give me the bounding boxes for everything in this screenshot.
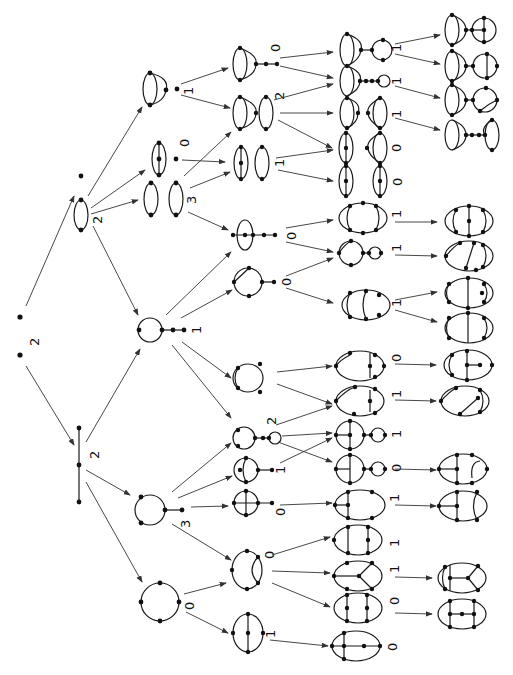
level4-arrows: [395, 35, 440, 614]
level3-column: 0 2 1 0 0 2: [230, 44, 299, 654]
svg-text:0: 0: [262, 551, 277, 559]
svg-text:1: 1: [389, 110, 404, 118]
svg-text:0: 0: [389, 354, 404, 362]
svg-text:0: 0: [389, 144, 404, 152]
svg-text:1: 1: [272, 159, 287, 167]
level2-theta-node: 0: [152, 139, 192, 178]
svg-text:0: 0: [387, 597, 402, 605]
svg-text:1: 1: [389, 77, 404, 85]
svg-text:1: 1: [273, 466, 288, 474]
svg-text:1: 1: [387, 494, 402, 502]
level2-double-loop-node: 3: [144, 181, 199, 218]
level2-sunset-node: 1: [143, 71, 196, 108]
svg-text:1: 1: [389, 430, 404, 438]
svg-text:1: 1: [181, 87, 196, 95]
level4-column: 1 1 1 0 0 1 1 1: [330, 32, 405, 661]
level2-ring-node: 0: [139, 581, 197, 624]
svg-text:0: 0: [389, 464, 404, 472]
level5-column: [437, 13, 499, 629]
level3-arrows: [270, 52, 333, 646]
svg-text:0: 0: [268, 44, 283, 52]
svg-text:0: 0: [177, 139, 192, 147]
level2-loop-stub-node: 3: [135, 495, 193, 528]
svg-text:1: 1: [263, 630, 278, 638]
svg-text:1: 1: [387, 539, 402, 547]
svg-text:0: 0: [390, 178, 405, 186]
svg-text:2: 2: [90, 216, 105, 224]
svg-text:1: 1: [389, 390, 404, 398]
svg-text:2: 2: [87, 451, 102, 459]
svg-text:1: 1: [389, 44, 404, 52]
svg-text:0: 0: [182, 602, 197, 610]
topology-tree-diagram: 2 2 2 1 0: [0, 0, 513, 675]
root-node: 2: [17, 314, 42, 357]
level2-loop-tail-node: 1: [137, 318, 204, 342]
svg-text:0: 0: [385, 643, 400, 651]
svg-text:1: 1: [189, 326, 204, 334]
svg-text:0: 0: [284, 232, 299, 240]
svg-text:2: 2: [264, 417, 279, 425]
level1-path-node: 2: [77, 426, 102, 505]
svg-text:3: 3: [178, 520, 193, 528]
svg-text:0: 0: [273, 508, 288, 516]
svg-text:1: 1: [389, 244, 404, 252]
svg-text:2: 2: [27, 338, 42, 346]
svg-text:1: 1: [387, 565, 402, 573]
svg-text:0: 0: [279, 278, 294, 286]
level1-loop-node: 2: [74, 174, 105, 233]
svg-text:1: 1: [389, 210, 404, 218]
svg-text:3: 3: [184, 196, 199, 204]
